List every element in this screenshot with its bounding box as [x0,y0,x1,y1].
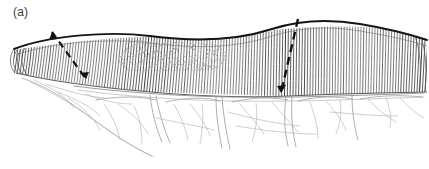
bowel-segment [9,21,428,97]
arrowhead-down [80,72,89,79]
mesentery-left-edge-inner [30,82,154,157]
mesentery-region [22,78,424,157]
bowel-subcontour [16,28,427,55]
vascular-arcades [150,95,358,149]
bowel-mesentery-illustration [0,0,429,169]
bowel-hatching [9,27,428,96]
figure-panel: (a) [0,0,429,169]
